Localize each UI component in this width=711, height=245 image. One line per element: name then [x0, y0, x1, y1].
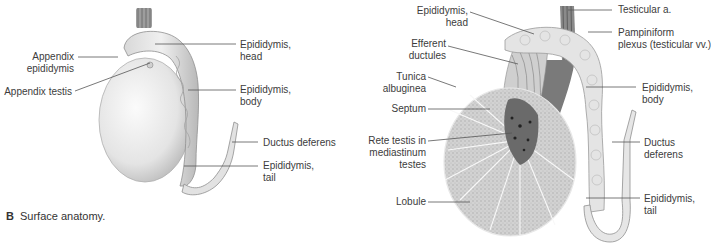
label-epididymis-head-right: Epididymis, head [400, 5, 468, 29]
label-epididymis-head-left: Epididymis, head [240, 39, 291, 63]
label-epididymis-tail-right: Epididymis, tail [644, 193, 695, 217]
left-figure-surface-anatomy [75, 8, 258, 195]
label-ductus-deferens-right: Ductus deferens [644, 137, 683, 161]
label-rete-testis: Rete testis in mediastinum testes [346, 135, 426, 171]
label-efferent-ductules: Efferent ductules [390, 38, 446, 62]
label-epididymis-body-left: Epididymis, body [240, 84, 291, 108]
figure-caption: BSurface anatomy. [6, 210, 105, 222]
label-ductus-deferens-left: Ductus deferens [263, 137, 336, 149]
label-septum: Septum [370, 103, 426, 115]
label-appendix-testis: Appendix testis [4, 86, 72, 98]
caption-letter: B [6, 210, 14, 222]
caption-text: Surface anatomy. [20, 210, 105, 222]
label-pampiniform-plexus: Pampiniform plexus (testicular vv.) [618, 27, 711, 51]
label-appendix-epididymis: Appendix epididymis [14, 51, 74, 75]
label-testicular-artery: Testicular a. [618, 4, 671, 16]
label-lobule: Lobule [370, 196, 426, 208]
right-figure-section [428, 6, 640, 242]
label-tunica-albuginea: Tunica albuginea [370, 71, 426, 95]
label-epididymis-tail-left: Epididymis, tail [263, 160, 314, 184]
label-epididymis-body-right: Epididymis, body [642, 82, 693, 106]
